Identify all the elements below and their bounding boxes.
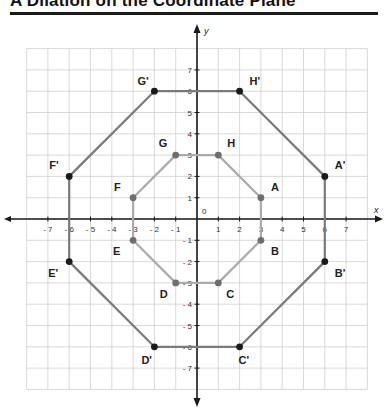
- vertex-label: E': [48, 267, 58, 279]
- vertex-label: G: [159, 137, 168, 149]
- vertex-label: H: [227, 137, 235, 149]
- vertex-point: [215, 280, 222, 287]
- y-axis-arrow-down-icon: [194, 398, 201, 407]
- vertex-label: H': [250, 75, 261, 87]
- vertex-label: B': [335, 267, 346, 279]
- x-tick-label: - 2: [150, 225, 160, 234]
- vertex-label: D': [141, 354, 152, 366]
- vertex-point: [258, 237, 265, 244]
- y-tick-label: 7: [188, 66, 193, 75]
- axes: xy0: [4, 24, 383, 407]
- coordinate-plane: xy0 - 7- 6- 5- 4- 3- 2- 112345677654321-…: [0, 0, 389, 418]
- vertex-label: A: [271, 181, 279, 193]
- vertex-point: [236, 343, 243, 350]
- y-tick-label: - 5: [183, 322, 193, 331]
- x-tick-label: - 4: [107, 225, 117, 234]
- x-tick-label: 7: [344, 225, 349, 234]
- y-tick-label: - 2: [183, 258, 193, 267]
- vertex-label: C: [226, 288, 234, 300]
- y-tick-label: 5: [188, 109, 193, 118]
- y-axis-arrow-up-icon: [194, 24, 201, 33]
- vertex-label: B: [271, 245, 279, 257]
- x-axis-arrow-left-icon: [4, 216, 11, 222]
- x-tick-label: 2: [237, 225, 242, 234]
- y-tick-label: 2: [188, 172, 193, 181]
- vertex-point: [66, 258, 73, 265]
- vertex-point: [130, 194, 137, 201]
- vertex-point: [172, 280, 179, 287]
- vertex-point: [130, 237, 137, 244]
- y-tick-label: - 7: [183, 364, 193, 373]
- x-tick-label: - 7: [43, 225, 53, 234]
- x-tick-label: - 1: [171, 225, 181, 234]
- x-axis-label: x: [373, 205, 379, 215]
- x-tick-label: 5: [301, 225, 306, 234]
- vertex-point: [151, 343, 158, 350]
- vertex-point: [258, 194, 265, 201]
- vertex-point: [321, 258, 328, 265]
- origin-label: 0: [202, 207, 207, 216]
- vertex-point: [215, 152, 222, 159]
- vertex-label: D: [160, 288, 168, 300]
- vertex-point: [66, 173, 73, 180]
- y-tick-label: - 4: [183, 300, 193, 309]
- x-axis-arrow-right-icon: [375, 216, 383, 223]
- vertex-label: F: [114, 181, 121, 193]
- vertex-label: A': [335, 159, 346, 171]
- y-axis-label: y: [203, 26, 209, 36]
- x-tick-label: 1: [216, 225, 221, 234]
- y-tick-label: - 1: [183, 236, 193, 245]
- vertex-point: [172, 152, 179, 159]
- vertex-point: [321, 173, 328, 180]
- vertex-point: [236, 88, 243, 95]
- vertex-label: C': [239, 354, 250, 366]
- y-tick-label: 1: [188, 194, 193, 203]
- vertex-label: E: [113, 245, 120, 257]
- y-tick-label: 4: [188, 130, 193, 139]
- vertex-label: F': [49, 159, 59, 171]
- vertex-point: [151, 88, 158, 95]
- x-tick-label: 4: [280, 225, 285, 234]
- x-tick-label: - 5: [86, 225, 96, 234]
- vertex-label: G': [137, 75, 149, 87]
